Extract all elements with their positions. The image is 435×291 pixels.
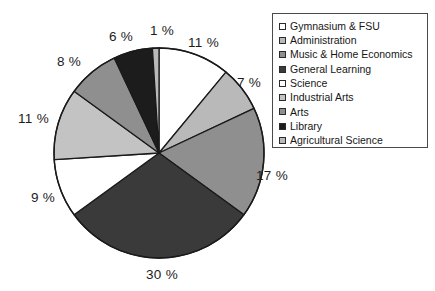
slice-percentage-label: 7 %	[237, 76, 261, 90]
legend-item[interactable]: Industrial Arts	[279, 90, 423, 104]
slice-percentage-label: 8 %	[57, 55, 81, 69]
legend-item[interactable]: Administration	[279, 33, 423, 47]
slice-percentage-label: 11 %	[18, 112, 49, 126]
legend-item-label: Library	[290, 121, 322, 132]
pie-slice-group	[54, 48, 264, 258]
legend-item-label: Agricultural Science	[290, 135, 383, 146]
legend-item[interactable]: Library	[279, 119, 423, 133]
legend-swatch-icon	[279, 37, 286, 44]
legend-swatch-icon	[279, 23, 286, 30]
slice-percentage-label: 1 %	[150, 24, 174, 38]
legend-swatch-icon	[279, 108, 286, 115]
legend-item[interactable]: Arts	[279, 105, 423, 119]
legend-swatch-icon	[279, 51, 286, 58]
legend-swatch-icon	[279, 94, 286, 101]
pie-chart: 11 %7 %17 %30 %9 %11 %8 %6 %1 % Gymnasiu…	[0, 0, 435, 291]
slice-percentage-label: 6 %	[109, 30, 133, 44]
slice-percentage-label: 9 %	[31, 191, 55, 205]
legend-item-label: General Learning	[290, 64, 371, 75]
legend-swatch-icon	[279, 66, 286, 73]
legend-item-label: Administration	[290, 35, 357, 46]
legend-item-label: Gymnasium & FSU	[290, 21, 380, 32]
legend-swatch-icon	[279, 123, 286, 130]
legend-item-label: Music & Home Economics	[290, 49, 413, 60]
legend-item[interactable]: General Learning	[279, 62, 423, 76]
legend-item-label: Arts	[290, 107, 309, 118]
legend-item[interactable]: Gymnasium & FSU	[279, 19, 423, 33]
legend-swatch-icon	[279, 137, 286, 144]
legend-item-list: Gymnasium & FSUAdministrationMusic & Hom…	[279, 19, 423, 148]
legend-item[interactable]: Science	[279, 76, 423, 90]
legend-item[interactable]: Agricultural Science	[279, 133, 423, 147]
slice-percentage-label: 17 %	[256, 169, 288, 183]
slice-percentage-label: 30 %	[146, 268, 178, 282]
legend-item-label: Industrial Arts	[290, 92, 354, 103]
slice-percentage-label: 11 %	[188, 36, 219, 50]
legend-swatch-icon	[279, 80, 286, 87]
legend-item-label: Science	[290, 78, 327, 89]
legend-item[interactable]: Music & Home Economics	[279, 48, 423, 62]
legend-box: Gymnasium & FSUAdministrationMusic & Hom…	[272, 13, 428, 148]
